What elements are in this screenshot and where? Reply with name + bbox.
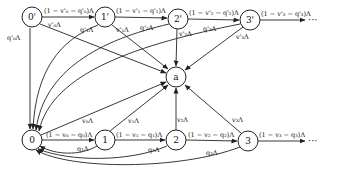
label-top-2p-3p: (1 − v'₂ − q'₂)Λ [189,9,239,17]
svg-text:a: a [173,72,179,82]
edge-3p-0 [39,24,240,131]
svg-text:0': 0' [28,12,36,22]
edge-0-a [41,82,166,135]
edge-1p-0 [33,25,98,129]
edge-1p-2p [115,17,167,18]
label-top-3p-out: (1 − v'₃ − q'₃)Λ [261,10,311,18]
node-a: a [166,67,186,87]
label-q1: q₁Λ [77,145,89,153]
node-2-prime: 2' [168,9,188,29]
node-1: 1 [95,130,115,150]
edge-2-3 [186,140,237,141]
svg-text:3: 3 [245,136,251,146]
label-v1p: v'₁Λ [115,26,129,34]
edge-3-a [185,85,241,133]
label-q3: q₃Λ [206,149,218,157]
node-0: 0 [22,130,42,150]
label-top-0p-1p: (1 − v'₀ − q'₀)Λ [44,7,94,15]
label-q0p: q'₀Λ [7,34,21,42]
label-v2: v₂Λ [176,116,188,124]
label-bot-3-out: (1 − v₃ − q₃)Λ [259,131,305,139]
label-bot-0-1: (1 − v₀ − q₀)Λ [46,131,92,139]
ellipsis-top: ··· [308,14,318,25]
label-q3p: q'₃Λ [203,25,217,33]
svg-text:2': 2' [174,14,182,24]
label-v3: v₃Λ [231,116,243,124]
edge-2p-3p [188,19,239,20]
edge-2p-a [176,29,177,66]
node-3-prime: 3' [240,10,260,30]
label-q2p: q'₂Λ [140,24,154,32]
label-q1p: q'₁Λ [80,26,94,34]
label-bot-2-3: (1 − v₂ − q₂)Λ [188,131,234,139]
label-bot-1-2: (1 − v₁ − q₁)Λ [116,131,162,139]
svg-text:1': 1' [101,12,109,22]
label-q2: q₂Λ [148,146,160,154]
node-3: 3 [238,131,258,151]
edge-2p-0 [36,24,169,130]
node-2: 2 [166,130,186,150]
ellipsis-bottom: ··· [308,135,318,146]
diagram-svg: 0' 1' 2' 3' a 0 1 2 3 (1 − v'₀ − q'₀)Λ (… [0,0,339,177]
label-v1: v₁Λ [127,117,139,125]
label-top-1p-2p: (1 − v'₁ − q'₁)Λ [116,7,166,15]
label-v0: v₀Λ [81,117,93,125]
edge-1-a [110,85,168,131]
label-v2p: v'₂Λ [178,30,192,38]
node-0-prime: 0' [22,7,42,27]
svg-text:3': 3' [246,15,254,25]
svg-text:0: 0 [29,135,35,145]
label-v3p: v'₃Λ [235,33,249,41]
svg-text:2: 2 [173,135,179,145]
edge-3p-a [185,27,243,70]
svg-text:1: 1 [102,135,108,145]
node-1-prime: 1' [95,7,115,27]
state-transition-diagram: 0' 1' 2' 3' a 0 1 2 3 (1 − v'₀ − q'₀)Λ (… [0,0,339,177]
label-v0p: v'₀Λ [47,21,61,29]
